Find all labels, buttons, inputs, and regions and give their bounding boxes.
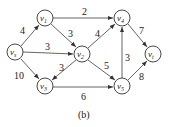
edge-v2-v4 — [88, 24, 115, 48]
edge-v4-vt — [128, 24, 147, 47]
graph-diagram: 4 3 10 2 3 3 4 5 6 3 7 8 — [0, 0, 169, 127]
edge-weight-v2-v3: 3 — [59, 62, 64, 73]
edge-weight-v1-v4: 2 — [82, 6, 87, 17]
edge-weight-v5-v4: 3 — [125, 52, 130, 63]
node-v5: v5 — [114, 78, 130, 94]
edge-v2-v5 — [88, 60, 115, 80]
node-vs: vs — [7, 44, 23, 60]
edge-weight-v4-vt: 7 — [139, 25, 144, 36]
edge-weight-v1-v2: 3 — [68, 28, 73, 39]
edge-weight-v3-v5: 6 — [81, 91, 86, 102]
node-v1: v1 — [37, 10, 53, 26]
edge-weight-vs-v1: 4 — [20, 25, 25, 36]
node-v2: v2 — [74, 46, 90, 62]
node-vt: vt — [145, 46, 161, 62]
edge-v5-vt — [128, 61, 147, 80]
edge-weight-v2-v4: 4 — [95, 28, 100, 39]
edge-v2-v3 — [52, 60, 76, 80]
edge-weight-v2-v5: 5 — [104, 60, 109, 71]
node-v3: v3 — [37, 78, 53, 94]
edge-vs-v2 — [23, 52, 73, 54]
edge-weight-vs-v3: 10 — [14, 70, 24, 81]
edge-weight-v5-vt: 8 — [139, 71, 144, 82]
node-v4: v4 — [114, 10, 130, 26]
edge-weight-vs-v2: 3 — [45, 41, 50, 52]
figure-caption: (b) — [78, 109, 90, 121]
